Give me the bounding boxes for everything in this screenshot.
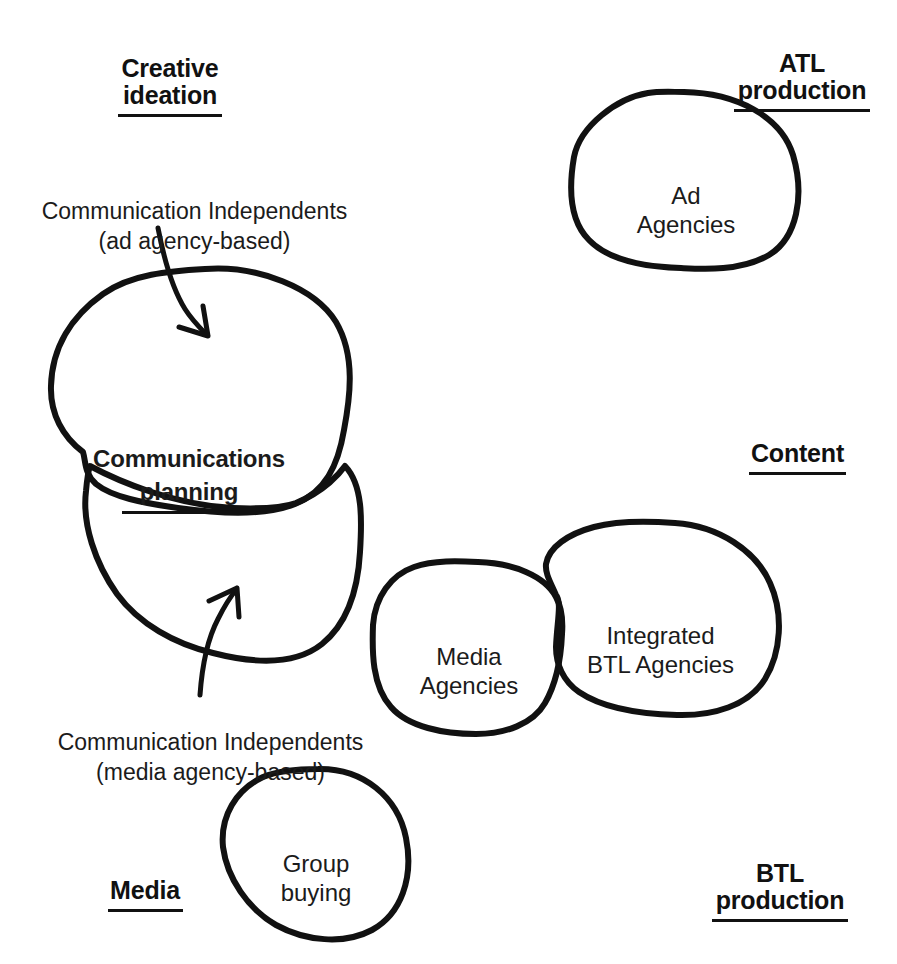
axis-label-atl-production: ATL production <box>722 23 882 139</box>
blob-label-integrated-btl-agencies-text: Integrated BTL Agencies <box>587 622 734 678</box>
blob-label-media-agencies: Media Agencies <box>399 613 539 700</box>
arrow-media-agency-based <box>200 590 236 695</box>
blob-label-integrated-btl-agencies: Integrated BTL Agencies <box>568 592 753 679</box>
blob-label-communications-planning-underline <box>122 511 256 514</box>
axis-label-atl-production-text: ATL production <box>738 49 867 104</box>
axis-label-media-underline <box>108 909 183 912</box>
axis-label-content-text: Content <box>751 439 844 467</box>
axis-label-btl-production: BTL production <box>700 833 860 949</box>
axis-label-media-text: Media <box>110 876 180 904</box>
blob-label-communications-planning: Communications planning <box>57 409 321 547</box>
diagram-canvas: Creative ideation ATL production Content… <box>0 0 897 964</box>
axis-label-creative-ideation-underline <box>118 114 222 117</box>
blob-label-group-buying-text: Group buying <box>281 850 352 906</box>
blob-label-ad-agencies-text: Ad Agencies <box>637 182 736 238</box>
axis-label-atl-production-underline <box>734 109 870 112</box>
axis-label-creative-ideation-text: Creative ideation <box>121 54 218 109</box>
axis-label-btl-production-underline <box>712 919 848 922</box>
callout-ad-agency-based: Communication Independents (ad agency-ba… <box>22 166 367 256</box>
blob-label-group-buying: Group buying <box>246 820 386 907</box>
callout-ad-agency-based-text: Communication Independents (ad agency-ba… <box>42 198 348 254</box>
axis-label-content-underline <box>749 472 846 475</box>
blob-label-media-agencies-text: Media Agencies <box>420 643 519 699</box>
callout-media-agency-based: Communication Independents (media agency… <box>38 697 383 787</box>
axis-label-media: Media <box>90 850 200 939</box>
axis-label-creative-ideation: Creative ideation <box>95 28 245 144</box>
axis-label-content: Content <box>735 413 860 502</box>
axis-label-btl-production-text: BTL production <box>716 859 845 914</box>
blob-label-communications-planning-text: Communications planning <box>93 445 285 505</box>
callout-media-agency-based-text: Communication Independents (media agency… <box>58 729 364 785</box>
blob-label-ad-agencies: Ad Agencies <box>611 152 761 239</box>
